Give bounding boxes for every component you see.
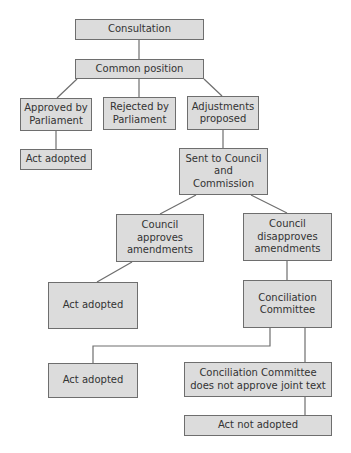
node-act-not-adopted: Act not adopted xyxy=(184,415,332,436)
node-adjustments-proposed: Adjustments proposed xyxy=(187,96,259,130)
edge-sent-disapproves xyxy=(251,195,287,213)
node-act-adopted-3: Act adopted xyxy=(48,363,138,398)
flowchart: Consultation Common position Approved by… xyxy=(0,0,351,453)
node-rejected-by-parliament: Rejected by Parliament xyxy=(103,97,176,130)
edge-sent-approves xyxy=(160,195,196,214)
node-council-disapproves: Council disapproves amendments xyxy=(243,213,332,261)
node-sent-to-council: Sent to Council and Commission xyxy=(179,148,268,195)
edge-common-approved xyxy=(57,79,77,98)
node-approved-by-parliament: Approved by Parliament xyxy=(20,98,92,131)
edge-approves-act xyxy=(97,262,132,282)
node-conciliation-committee: Conciliation Committee xyxy=(243,280,332,328)
node-act-adopted-2: Act adopted xyxy=(48,282,138,329)
node-act-adopted-1: Act adopted xyxy=(20,149,92,170)
node-consultation: Consultation xyxy=(75,19,204,40)
node-council-approves: Council approves amendments xyxy=(116,214,204,262)
node-cc-does-not-approve: Conciliation Committee does not approve … xyxy=(184,362,332,397)
edge-conciliation-act xyxy=(93,328,270,363)
edge-common-adjustments xyxy=(204,79,222,96)
node-common-position: Common position xyxy=(75,59,204,79)
